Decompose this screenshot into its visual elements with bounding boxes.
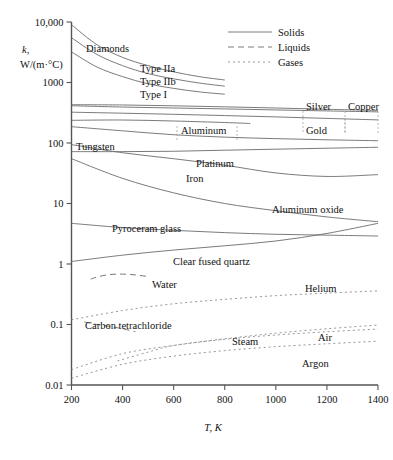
curve-water bbox=[91, 274, 148, 279]
label-copper: Copper bbox=[348, 101, 379, 112]
curve-helium bbox=[72, 291, 379, 320]
legend-label-gases: Gases bbox=[278, 57, 303, 68]
label-diamonds: Diamonds bbox=[86, 43, 129, 54]
x-tick-label-4: 1000 bbox=[265, 394, 286, 405]
label-air: Air bbox=[318, 332, 333, 343]
label-gold: Gold bbox=[306, 125, 328, 136]
x-tick-label-5: 1200 bbox=[316, 394, 337, 405]
y-tick-label-1: 1000 bbox=[43, 77, 64, 88]
label-type-iia: Type IIa bbox=[140, 63, 175, 74]
label-tungsten: Tungsten bbox=[76, 141, 115, 152]
label-helium: Helium bbox=[305, 283, 337, 294]
x-tick-label-0: 200 bbox=[64, 394, 80, 405]
x-axis-title: T, K bbox=[204, 422, 222, 433]
curve-platinum bbox=[72, 147, 379, 151]
x-tick-label-2: 600 bbox=[166, 394, 182, 405]
legend-label-solids: Solids bbox=[278, 27, 304, 38]
chart-container: 10,00010001001010.10.01 2004006008001000… bbox=[0, 0, 393, 460]
x-tick-label-1: 400 bbox=[115, 394, 131, 405]
curve-aluminum bbox=[72, 120, 251, 124]
label-aluminum-oxide: Aluminum oxide bbox=[272, 204, 344, 215]
curve-gold bbox=[72, 112, 379, 120]
leader-copper bbox=[345, 111, 378, 133]
x-tick-label-6: 1400 bbox=[368, 394, 389, 405]
y-axis-title-units: W/(m·°C) bbox=[20, 59, 63, 71]
y-tick-label-0: 10,000 bbox=[35, 17, 64, 28]
y-axis-title-symbol: k, bbox=[22, 44, 29, 55]
x-tick-label-3: 800 bbox=[217, 394, 233, 405]
label-type-iib: Type IIb bbox=[140, 76, 176, 87]
x-axis-ticks: 200400600800100012001400 bbox=[64, 385, 389, 405]
label-iron: Iron bbox=[186, 173, 204, 184]
label-pyroceram-glass: Pyroceram glass bbox=[112, 223, 181, 234]
curve-argon bbox=[72, 341, 379, 378]
label-clear-fused-quartz: Clear fused quartz bbox=[173, 256, 250, 267]
y-tick-label-4: 1 bbox=[58, 259, 63, 270]
y-tick-label-3: 10 bbox=[53, 198, 64, 209]
label-aluminum: Aluminum bbox=[181, 125, 227, 136]
label-platinum: Platinum bbox=[196, 158, 234, 169]
thermal-conductivity-chart: 10,00010001001010.10.01 2004006008001000… bbox=[0, 0, 393, 460]
curve-silver bbox=[72, 105, 379, 111]
legend-label-liquids: Liquids bbox=[278, 42, 310, 53]
y-tick-label-5: 0.1 bbox=[50, 319, 63, 330]
y-axis-ticks: 10,00010001001010.10.01 bbox=[35, 17, 72, 391]
label-silver: Silver bbox=[306, 101, 332, 112]
label-steam: Steam bbox=[232, 336, 258, 347]
label-carbon-tetrachloride: Carbon tetrachloride bbox=[85, 320, 172, 331]
label-water: Water bbox=[152, 279, 177, 290]
label-type-i: Type I bbox=[140, 89, 167, 100]
legend: Solids Liquids Gases bbox=[228, 27, 310, 68]
curve-air bbox=[72, 329, 379, 369]
curve-labels: Diamonds Type IIa Type IIb Type I Silver… bbox=[76, 43, 379, 369]
y-tick-label-2: 100 bbox=[48, 138, 64, 149]
label-argon: Argon bbox=[302, 358, 329, 369]
y-tick-label-6: 0.01 bbox=[45, 380, 63, 391]
